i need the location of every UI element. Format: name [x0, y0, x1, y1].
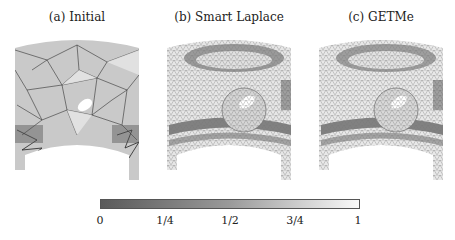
quality-colorbar	[100, 199, 360, 209]
caption-smart-laplace: (b) Smart Laplace	[174, 10, 284, 24]
colorbar-tick-quarter: 1/4	[156, 214, 174, 227]
colorbar-tick-0: 0	[97, 214, 104, 227]
mesh-getme-image	[311, 30, 451, 190]
colorbar-tick-half: 1/2	[221, 214, 239, 227]
colorbar-tick-three-quarter: 3/4	[286, 214, 304, 227]
mesh-initial-image	[7, 30, 147, 190]
mesh-smart-laplace-image	[159, 30, 299, 190]
caption-getme: (c) GETMe	[348, 10, 414, 24]
caption-initial: (a) Initial	[49, 10, 105, 24]
colorbar-tick-1: 1	[355, 214, 362, 227]
